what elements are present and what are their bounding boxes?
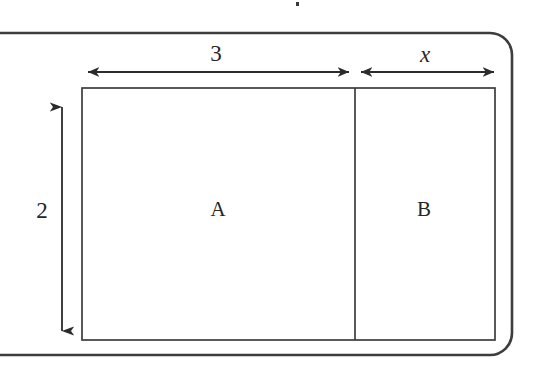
geometry-diagram	[0, 0, 533, 369]
scan-speck-artifact	[296, 2, 299, 6]
outer-rounded-frame	[0, 33, 512, 355]
region-label-b: B	[417, 199, 431, 220]
dimension-label-x: x	[420, 43, 430, 66]
region-label-a: A	[210, 199, 225, 220]
dimension-label-3: 3	[210, 42, 222, 65]
figure-canvas: 3 x 2 A B	[0, 0, 533, 369]
inner-rectangle	[82, 88, 495, 340]
dimension-label-2: 2	[36, 199, 48, 222]
